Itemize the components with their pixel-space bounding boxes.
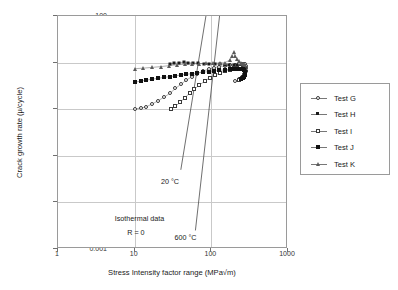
- data-point: [197, 83, 201, 87]
- data-point: [159, 65, 163, 69]
- data-point: [162, 95, 166, 99]
- data-point: [218, 61, 222, 65]
- legend-marker-icon: [311, 160, 327, 169]
- data-point: [168, 91, 172, 95]
- legend-label: Test H: [334, 110, 356, 119]
- plot-annotation: Isothermal data: [115, 214, 165, 223]
- data-point: [141, 66, 145, 70]
- legend-label: Test K: [334, 160, 355, 169]
- data-point: [188, 91, 192, 95]
- legend-item-test-j[interactable]: Test J: [311, 140, 354, 156]
- data-point: [183, 96, 187, 100]
- data-point: [178, 100, 182, 104]
- data-point: [190, 62, 194, 66]
- data-point: [204, 61, 208, 65]
- plot-annotation: R = 0: [127, 228, 144, 237]
- data-point: [167, 64, 171, 68]
- data-point: [173, 104, 177, 108]
- legend-marker-icon: [311, 94, 327, 103]
- legend-item-test-i[interactable]: Test I: [311, 123, 352, 139]
- data-point: [156, 76, 160, 80]
- legend-marker-icon: [311, 110, 327, 119]
- series-lines: [58, 16, 287, 248]
- legend-item-test-g[interactable]: Test G: [311, 90, 356, 106]
- legend-label: Test G: [334, 94, 356, 103]
- y-axis-title: Crack growth rate (µ/cycle): [15, 48, 24, 218]
- data-point: [195, 71, 199, 75]
- data-point: [203, 79, 207, 83]
- x-tick-mark: [134, 248, 135, 252]
- data-point: [212, 69, 216, 73]
- data-point: [213, 73, 217, 77]
- data-point: [173, 86, 177, 90]
- data-point: [156, 99, 160, 103]
- data-point: [133, 107, 137, 111]
- data-point: [139, 106, 143, 110]
- plot-annotation: 600 °C: [174, 233, 196, 242]
- data-point: [201, 70, 205, 74]
- data-point: [190, 72, 194, 76]
- data-point: [223, 68, 227, 72]
- data-point: [197, 62, 201, 66]
- data-point: [179, 82, 183, 86]
- data-point: [173, 74, 177, 78]
- data-point: [162, 75, 166, 79]
- data-point: [150, 65, 154, 69]
- data-point: [183, 62, 187, 66]
- data-point: [139, 79, 143, 83]
- legend-item-test-k[interactable]: Test K: [311, 156, 355, 172]
- data-point: [168, 75, 172, 79]
- data-point: [184, 78, 188, 82]
- data-point: [144, 78, 148, 82]
- chart-figure: Crack growth rate (µ/cycle) Stress Inten…: [0, 0, 398, 290]
- plot-annotation: 20 °C: [161, 177, 179, 186]
- legend-item-test-h[interactable]: Test H: [311, 107, 356, 123]
- data-point: [243, 63, 247, 67]
- legend-marker-icon: [311, 127, 327, 136]
- data-point: [192, 87, 196, 91]
- data-point: [150, 77, 154, 81]
- x-tick-mark: [210, 248, 211, 252]
- data-point: [150, 102, 154, 106]
- x-tick-mark: [287, 248, 288, 252]
- x-tick-mark: [57, 248, 58, 252]
- data-point: [207, 70, 211, 74]
- data-point: [133, 67, 137, 71]
- data-point: [228, 63, 231, 66]
- data-point: [133, 80, 137, 84]
- data-point: [208, 76, 212, 80]
- data-point: [175, 63, 179, 67]
- data-point: [144, 105, 148, 109]
- x-axis-title: Stress Intensity factor range (MPa√m): [57, 268, 287, 277]
- data-point: [228, 58, 232, 62]
- legend-marker-icon: [311, 143, 327, 152]
- data-point: [184, 72, 188, 76]
- data-point: [211, 61, 215, 65]
- data-point: [239, 77, 243, 81]
- plot-area: 20 °C600 °CIsothermal dataR = 0: [57, 15, 287, 248]
- data-point: [217, 68, 221, 72]
- legend-label: Test J: [334, 143, 354, 152]
- data-point: [179, 73, 183, 77]
- chart-legend: Test GTest HTest ITest JTest K: [300, 83, 390, 175]
- data-point: [223, 61, 227, 65]
- legend-label: Test I: [334, 127, 352, 136]
